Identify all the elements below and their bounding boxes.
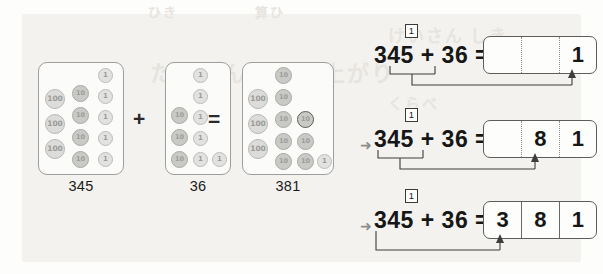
coin-1: 1 [98, 110, 113, 125]
coin-100: 100 [45, 139, 65, 159]
coin-100: 100 [248, 89, 268, 109]
coin-10: 10 [72, 129, 89, 146]
coin-10: 10 [72, 85, 89, 102]
coin-1: 1 [317, 154, 332, 169]
bleed-text: 算ひ [255, 2, 285, 21]
coin-1: 1 [193, 68, 208, 83]
coin-10: 10 [72, 107, 89, 124]
carry-box: 1 [405, 189, 418, 203]
coin-100: 100 [248, 114, 268, 134]
coin-group-label-sum: 381 [242, 178, 334, 194]
coin-1: 1 [98, 131, 113, 146]
coin-1: 1 [193, 152, 208, 167]
calculation-step-tens: ➜ 1 345 + 36 = 8 1 [360, 102, 603, 186]
coin-1: 1 [98, 68, 113, 83]
plus-sign: + [133, 108, 145, 129]
coin-10: 10 [275, 111, 292, 128]
calculation-step-hundreds: ➜ 1 345 + 36 = 3 8 1 [360, 183, 603, 267]
coin-10: 10 [171, 107, 188, 124]
coin-1: 1 [212, 152, 227, 167]
coin-10: 10 [275, 153, 292, 170]
coin-10: 10 [275, 67, 292, 84]
coin-10: 10 [72, 151, 89, 168]
coin-group-label-addend-2: 36 [165, 178, 231, 194]
coin-10-carried: 10 [297, 111, 314, 128]
expression: 345 + 36 = [374, 126, 489, 153]
carry-connector-tens [360, 150, 603, 186]
coin-1: 1 [98, 152, 113, 167]
coin-1: 1 [193, 89, 208, 104]
expression: 345 + 36 = [374, 42, 489, 69]
coin-10: 10 [275, 89, 292, 106]
worksheet-page: ひき 算ひ けいさん しき たしざん くり上がり くらべ 100 100 100… [0, 0, 603, 274]
coin-1: 1 [98, 89, 113, 104]
coin-group-addend-1: 100 100 100 10 10 10 10 1 1 1 1 1 [38, 62, 124, 175]
coin-group-addend-2: 10 10 10 1 1 1 1 1 1 [165, 62, 231, 175]
coin-10: 10 [275, 133, 292, 150]
carry-connector-ones [360, 66, 603, 102]
coin-10: 10 [297, 153, 314, 170]
coin-100: 100 [45, 114, 65, 134]
coin-10: 10 [171, 151, 188, 168]
coin-group-sum: 100 100 100 10 10 10 10 10 10 10 10 1 [242, 62, 334, 175]
bleed-text: ひき [148, 2, 178, 21]
carry-box: 1 [405, 24, 418, 38]
coin-group-label-addend-1: 345 [38, 178, 124, 194]
coin-10: 10 [171, 129, 188, 146]
coin-1: 1 [193, 110, 208, 125]
coin-model: 100 100 100 10 10 10 10 1 1 1 1 1 + 10 1… [30, 62, 340, 202]
carry-box: 1 [405, 108, 418, 122]
coin-100: 100 [45, 89, 65, 109]
equals-sign: = [208, 108, 220, 129]
calculation-step-ones: 1 345 + 36 = 1 [360, 18, 603, 102]
coin-1: 1 [193, 131, 208, 146]
carry-connector-hundreds [360, 231, 603, 267]
coin-100: 100 [248, 139, 268, 159]
coin-10: 10 [297, 133, 314, 150]
expression: 345 + 36 = [374, 207, 489, 234]
